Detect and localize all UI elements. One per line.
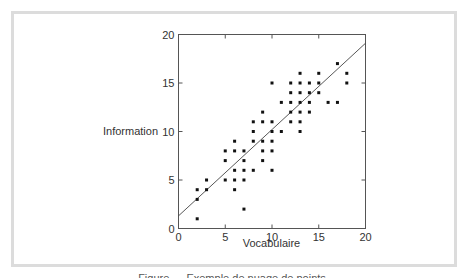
plot-area: 0510152005101520 xyxy=(162,29,371,243)
data-point xyxy=(299,91,302,94)
data-point xyxy=(261,120,264,123)
data-point xyxy=(299,72,302,75)
data-point xyxy=(336,62,339,65)
data-point xyxy=(205,188,208,191)
data-point xyxy=(308,91,311,94)
data-point xyxy=(299,101,302,104)
y-tick-label: 15 xyxy=(162,77,174,89)
data-point xyxy=(233,140,236,143)
data-point xyxy=(280,101,283,104)
data-point xyxy=(233,179,236,182)
data-point xyxy=(317,91,320,94)
data-point xyxy=(252,130,255,133)
data-point xyxy=(233,188,236,191)
data-point xyxy=(299,82,302,85)
data-point xyxy=(271,120,274,123)
data-point xyxy=(345,82,348,85)
x-tick-label: 5 xyxy=(222,231,228,243)
data-point xyxy=(299,111,302,114)
data-point xyxy=(252,140,255,143)
x-axis-label: Vocabulaire xyxy=(243,237,301,249)
data-point xyxy=(242,169,245,172)
x-tick-label: 15 xyxy=(313,231,325,243)
data-point xyxy=(271,140,274,143)
data-point xyxy=(280,130,283,133)
data-point xyxy=(252,120,255,123)
data-point xyxy=(289,91,292,94)
data-point xyxy=(289,111,292,114)
x-tick-label: 0 xyxy=(175,231,181,243)
data-point xyxy=(224,179,227,182)
data-point xyxy=(271,82,274,85)
data-point xyxy=(261,149,264,152)
data-point xyxy=(242,208,245,211)
data-point xyxy=(271,169,274,172)
data-point xyxy=(345,72,348,75)
data-point xyxy=(299,130,302,133)
y-axis-label: Information xyxy=(103,125,158,137)
data-point xyxy=(289,82,292,85)
data-point xyxy=(289,120,292,123)
data-point xyxy=(233,169,236,172)
y-tick-label: 0 xyxy=(168,223,174,235)
data-point xyxy=(242,159,245,162)
data-point xyxy=(224,149,227,152)
data-point xyxy=(317,72,320,75)
data-point xyxy=(261,159,264,162)
data-point xyxy=(327,101,330,104)
scatter-chart: 0510152005101520 Vocabulaire Information xyxy=(0,0,464,278)
data-point xyxy=(261,140,264,143)
data-point xyxy=(271,130,274,133)
data-point xyxy=(317,82,320,85)
data-point xyxy=(242,179,245,182)
data-point xyxy=(233,149,236,152)
y-tick-label: 20 xyxy=(162,29,174,41)
data-point xyxy=(205,179,208,182)
y-tick-label: 10 xyxy=(162,126,174,138)
data-point xyxy=(308,101,311,104)
data-point xyxy=(196,188,199,191)
data-point xyxy=(289,101,292,104)
data-point xyxy=(224,159,227,162)
data-point xyxy=(308,82,311,85)
data-point xyxy=(271,149,274,152)
data-point xyxy=(196,198,199,201)
y-tick-label: 5 xyxy=(168,174,174,186)
data-point xyxy=(242,149,245,152)
data-point xyxy=(299,120,302,123)
data-point xyxy=(252,169,255,172)
data-point xyxy=(308,111,311,114)
x-tick-label: 20 xyxy=(359,231,371,243)
figure-caption: Figure — Exemple de nuage de points xyxy=(0,268,464,278)
data-point xyxy=(261,111,264,114)
data-point xyxy=(336,101,339,104)
data-point xyxy=(196,217,199,220)
